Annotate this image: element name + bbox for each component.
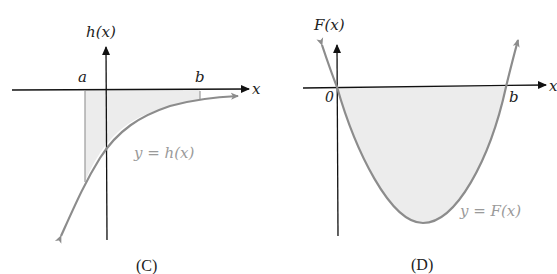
caption-c: (C)	[136, 257, 157, 274]
caption-d: (D)	[411, 256, 433, 274]
panel-c: h(x) x a b y = h(x) (C)	[12, 23, 261, 274]
bound-b-label-c: b	[195, 68, 205, 86]
y-axis-d	[337, 45, 338, 236]
x-axis-label-d: x	[549, 77, 557, 95]
origin-label: 0	[325, 89, 334, 105]
x-axis-label-c: x	[252, 80, 261, 98]
y-axis-label-d: F(x)	[313, 16, 345, 34]
bound-b-label-d: b	[509, 88, 519, 106]
curve-label-f: y = F(x)	[459, 202, 521, 220]
curve-label-h: y = h(x)	[133, 144, 195, 162]
panel-d: F(x) x 0 b y = F(x) (D)	[303, 16, 557, 274]
y-axis-c	[106, 47, 107, 240]
figure-canvas: h(x) x a b y = h(x) (C) F(x) x 0 b y = F…	[0, 0, 557, 274]
x-axis-c	[12, 89, 249, 90]
y-axis-label-c: h(x)	[86, 23, 116, 41]
bound-a-label: a	[78, 68, 87, 86]
